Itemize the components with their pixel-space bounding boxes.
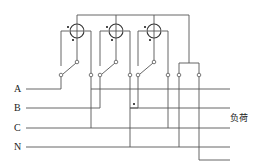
wires [26, 15, 230, 160]
junction-dot [133, 103, 135, 105]
load-label: 负荷 [230, 112, 248, 123]
meter-element-2 [106, 24, 123, 41]
meter-element-3 [144, 24, 161, 41]
label-b: B [14, 102, 21, 113]
label-a: A [14, 83, 22, 94]
label-c: C [14, 122, 21, 133]
meter-element-1 [67, 24, 84, 41]
label-n: N [14, 141, 21, 152]
wiring-diagram: A B C N 负荷 [0, 0, 260, 161]
